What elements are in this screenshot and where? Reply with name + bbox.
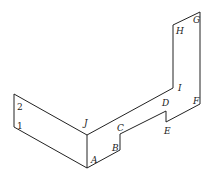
label-A: A [90, 155, 98, 165]
left-panel-outline [14, 94, 87, 168]
label-I: I [177, 83, 182, 93]
label-2: 2 [17, 102, 23, 112]
label-F: F [192, 96, 200, 106]
label-D: D [161, 98, 169, 108]
label-H: H [175, 26, 184, 36]
label-1: 1 [17, 121, 23, 131]
label-B: B [111, 143, 119, 153]
label-G: G [193, 15, 200, 25]
label-J: J [82, 118, 89, 128]
label-C: C [117, 123, 124, 133]
label-E: E [163, 126, 171, 136]
geometry-diagram: 2 1 J A B C D E F I H G [0, 0, 213, 183]
